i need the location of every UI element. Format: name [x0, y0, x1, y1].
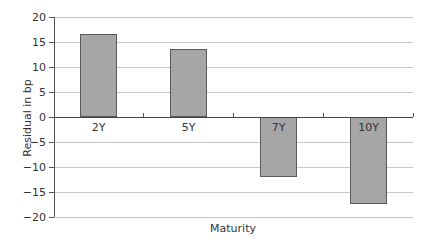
category-label: 5Y [182, 121, 196, 134]
x-tick [413, 113, 414, 117]
y-tick-label: −15 [18, 186, 46, 199]
x-axis-label: Maturity [210, 222, 256, 235]
bar-5y [170, 49, 207, 117]
bar-2y [80, 34, 117, 117]
y-tick-label: 5 [18, 86, 46, 99]
y-tick-label: 20 [18, 11, 46, 24]
y-tick-label: −20 [18, 211, 46, 224]
y-tick [49, 217, 54, 218]
bar-chart: Residual in bp Maturity 20151050−5−10−15… [0, 0, 434, 249]
y-tick-label: −10 [18, 161, 46, 174]
plot-area: 20151050−5−10−15−202Y5Y7Y10Y [54, 17, 413, 217]
category-label: 2Y [92, 121, 106, 134]
y-tick-label: 10 [18, 61, 46, 74]
gridline [54, 17, 413, 18]
zero-line [54, 117, 413, 118]
category-label: 10Y [358, 121, 379, 134]
category-label: 7Y [272, 121, 286, 134]
y-tick-label: 0 [18, 111, 46, 124]
y-tick-label: −5 [18, 136, 46, 149]
y-tick-label: 15 [18, 36, 46, 49]
gridline [54, 217, 413, 218]
